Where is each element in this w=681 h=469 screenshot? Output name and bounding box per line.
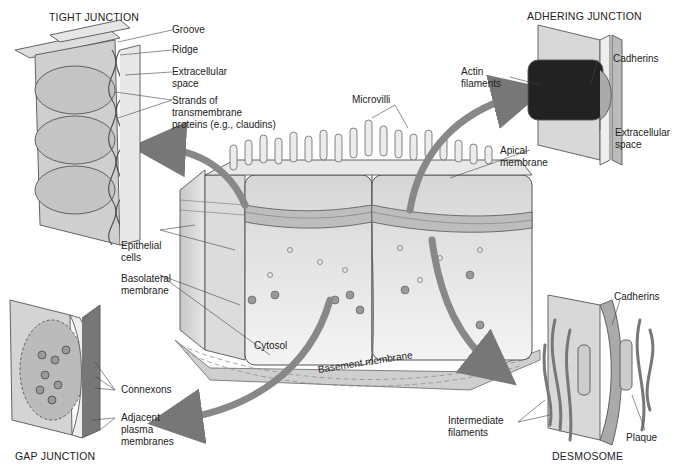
- adhering-junction-art: [528, 25, 622, 165]
- diagram-artwork: [0, 0, 681, 469]
- label-extracellular-space-aj: Extracellular space: [615, 127, 670, 151]
- label-connexons: Connexons: [121, 384, 172, 396]
- label-actin-filaments: Actin filaments: [461, 66, 501, 90]
- label-microvilli: Microvilli: [352, 94, 390, 106]
- adhering-junction-title: ADHERING JUNCTION: [527, 10, 642, 22]
- tight-junction-title: TIGHT JUNCTION: [49, 11, 139, 23]
- label-strands-claudins: Strands of transmembrane proteins (e.g.,…: [172, 95, 276, 131]
- label-groove: Groove: [172, 24, 205, 36]
- label-apical-membrane: Apical membrane: [500, 145, 548, 169]
- label-cytosol: Cytosol: [254, 340, 287, 352]
- label-basolateral-membrane: Basolateral membrane: [121, 273, 171, 297]
- label-extracellular-space-tj: Extracellular space: [172, 66, 227, 90]
- label-adjacent-plasma-membranes: Adjacent plasma membranes: [121, 412, 174, 448]
- desmosome-art: [544, 295, 653, 445]
- gap-junction-title: GAP JUNCTION: [15, 450, 95, 462]
- label-ridge: Ridge: [172, 44, 198, 56]
- label-cadherins-aj: Cadherins: [613, 53, 659, 65]
- label-epithelial-cells: Epithelial cells: [121, 240, 162, 264]
- tight-junction-art: [15, 20, 140, 245]
- label-intermediate-filaments: Intermediate filaments: [448, 415, 504, 439]
- epithelium-block: [175, 120, 540, 390]
- gap-junction-art: [10, 300, 100, 438]
- label-cadherins-desmosome: Cadherins: [614, 291, 660, 303]
- label-plaque: Plaque: [626, 432, 657, 444]
- desmosome-title: DESMOSOME: [552, 450, 623, 462]
